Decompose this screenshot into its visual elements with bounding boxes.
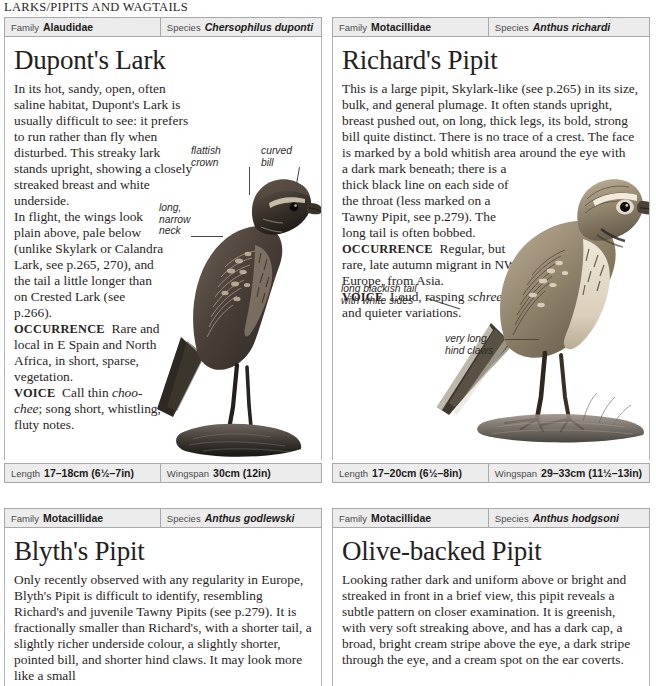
species-panel-blyths-pipit: Family Motacillidae Species Anthus godle… — [4, 508, 322, 686]
occurrence-lead: OCCURRENCE — [14, 322, 105, 336]
family-label: Family — [11, 22, 39, 33]
species-body: Richard's Pipit This is a large pipit, S… — [332, 37, 650, 460]
wingspan-label: Wingspan — [167, 468, 209, 479]
family-label: Family — [11, 513, 39, 524]
species-header-bar: Family Motacillidae Species Anthus godle… — [4, 508, 322, 528]
wingspan-label: Wingspan — [495, 468, 537, 479]
leader-line-long-narrow-neck — [191, 236, 223, 237]
family-value: Motacillidae — [43, 512, 103, 524]
length-cell: Length 17–18cm (6½–7in) — [5, 464, 160, 482]
description-paragraph: Only recently observed with any regulari… — [5, 565, 314, 684]
occurrence-lead: OCCURRENCE — [342, 242, 433, 256]
species-header-bar: Family Motacillidae Species Anthus hodgs… — [332, 508, 650, 528]
species-header-bar: Family Alaudidae Species Chersophilus du… — [4, 17, 322, 37]
species-cell: Species Anthus godlewski — [160, 509, 321, 527]
length-value: 17–20cm (6½–8in) — [372, 467, 462, 479]
species-body: Dupont's Lark In its hot, sandy, open, o… — [4, 37, 322, 460]
measurement-bar: Length 17–20cm (6½–8in) Wingspan 29–33cm… — [332, 463, 650, 483]
species-body: Blyth's Pipit Only recently observed wit… — [4, 528, 322, 686]
length-cell: Length 17–20cm (6½–8in) — [333, 464, 488, 482]
description-paragraph-narrow: In flight, the wings look plain above, p… — [5, 209, 166, 321]
species-cell: Species Anthus hodgsoni — [488, 509, 649, 527]
family-cell: Family Motacillidae — [333, 509, 488, 527]
family-value: Motacillidae — [371, 512, 431, 524]
length-value: 17–18cm (6½–7in) — [44, 467, 134, 479]
leader-line-very-long-hind-claws — [505, 339, 539, 340]
family-cell: Family Motacillidae — [333, 18, 488, 36]
running-head: LARKS/PIPITS AND WAGTAILS — [4, 0, 188, 15]
species-body: Olive-backed Pipit Looking rather dark a… — [332, 528, 650, 686]
page-title-richards-pipit: Richard's Pipit — [333, 37, 649, 74]
wingspan-cell: Wingspan 30cm (12in) — [160, 464, 321, 482]
species-value: Anthus hodgsoni — [533, 512, 619, 524]
callout-long-narrow-neck: long, narrow neck — [159, 202, 190, 237]
page-title-olive-backed-pipit: Olive-backed Pipit — [333, 528, 649, 565]
leader-line-flattish-crown — [249, 167, 250, 195]
species-value: Chersophilus duponti — [205, 21, 314, 33]
wingspan-cell: Wingspan 29–33cm (11½–13in) — [488, 464, 649, 482]
family-cell: Family Alaudidae — [5, 18, 160, 36]
species-panel-olive-backed-pipit: Family Motacillidae Species Anthus hodgs… — [332, 508, 650, 686]
page-title-duponts-lark: Dupont's Lark — [5, 37, 321, 74]
species-label: Species — [495, 513, 529, 524]
callout-very-long-hind-claws: very long hind claws — [445, 333, 493, 356]
description-paragraph: Looking rather dark and uniform above or… — [333, 565, 642, 668]
page-title-blyths-pipit: Blyth's Pipit — [5, 528, 321, 565]
description-paragraph: This is a large pipit, Skylark-like (see… — [333, 74, 642, 161]
family-value: Motacillidae — [371, 21, 431, 33]
voice-pre: Call thin — [62, 385, 109, 400]
callout-long-blackish-tail: long blackish tail with white sides — [341, 283, 417, 306]
running-head-text: LARKS/PIPITS AND WAGTAILS — [4, 0, 188, 14]
length-label: Length — [339, 468, 368, 479]
species-header-bar: Family Motacillidae Species Anthus richa… — [332, 17, 650, 37]
family-label: Family — [339, 22, 367, 33]
wingspan-value: 29–33cm (11½–13in) — [541, 467, 642, 479]
species-cell: Species Anthus richardi — [488, 18, 649, 36]
species-value: Anthus godlewski — [205, 512, 295, 524]
measurement-bar: Length 17–18cm (6½–7in) Wingspan 30cm (1… — [4, 463, 322, 483]
family-label: Family — [339, 513, 367, 524]
callout-flattish-crown: flattish crown — [191, 145, 221, 168]
species-cell: Species Chersophilus duponti — [160, 18, 321, 36]
species-label: Species — [167, 513, 201, 524]
family-cell: Family Motacillidae — [5, 509, 160, 527]
illustration-duponts-lark — [151, 141, 322, 459]
species-panel-richards-pipit: Family Motacillidae Species Anthus richa… — [332, 17, 650, 483]
illustration-richards-pipit — [433, 153, 650, 459]
species-value: Anthus richardi — [533, 21, 611, 33]
callout-curved-bill: curved bill — [261, 145, 292, 168]
voice-lead: VOICE — [14, 386, 55, 400]
voice-paragraph: VOICE Call thin choo-chee; song short, w… — [5, 385, 166, 433]
species-panel-duponts-lark: Family Alaudidae Species Chersophilus du… — [4, 17, 322, 483]
species-label: Species — [167, 22, 201, 33]
occurrence-paragraph: OCCURRENCE Rare and local in E Spain and… — [5, 321, 166, 385]
family-value: Alaudidae — [43, 21, 93, 33]
length-label: Length — [11, 468, 40, 479]
species-label: Species — [495, 22, 529, 33]
wingspan-value: 30cm (12in) — [213, 467, 271, 479]
